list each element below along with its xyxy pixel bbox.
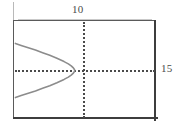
- frame-bottom-edge: [13, 117, 158, 119]
- graph-screenshot: 10 15: [0, 0, 179, 135]
- y-max-label: 15: [161, 63, 173, 74]
- x-max-label: 10: [72, 4, 84, 15]
- left-axis-riser: [13, 2, 14, 21]
- graph-window-frame: [13, 20, 156, 119]
- x-axis-dotted: [15, 70, 155, 72]
